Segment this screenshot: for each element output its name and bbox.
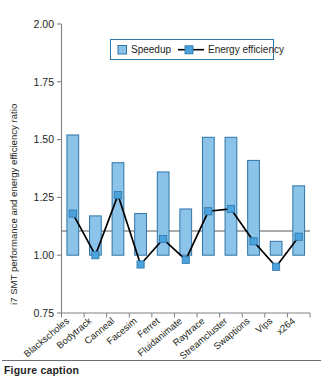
legend-swatch-speedup bbox=[118, 46, 127, 55]
y-tick-label: 1.25 bbox=[34, 191, 55, 203]
energy-efficiency-marker-streamcluster bbox=[227, 205, 234, 212]
y-tick-label: 2.00 bbox=[34, 18, 55, 30]
bar-raytrace bbox=[202, 137, 214, 255]
energy-efficiency-marker-raytrace bbox=[205, 208, 212, 215]
y-axis-title: i7 SMT performance and energy efficiency… bbox=[8, 104, 19, 305]
energy-efficiency-marker-facesim bbox=[137, 261, 144, 268]
bar-blackscholes bbox=[67, 135, 79, 255]
smt-speedup-energy-efficiency-chart: 0.751.001.251.501.752.00 BlackscholesBod… bbox=[0, 0, 323, 377]
energy-efficiency-marker-swaptions bbox=[250, 238, 257, 245]
bar-facesim bbox=[135, 214, 147, 256]
y-tick-label: 1.50 bbox=[34, 133, 55, 145]
y-tick-label: 0.75 bbox=[34, 307, 55, 319]
legend-label-energy-efficiency: Energy efficiency bbox=[208, 44, 284, 55]
legend-label-speedup: Speedup bbox=[131, 44, 171, 55]
bar-fluidanimate bbox=[180, 209, 192, 255]
energy-efficiency-marker-blackscholes bbox=[69, 210, 76, 217]
energy-efficiency-marker-canneal bbox=[114, 191, 121, 198]
legend-marker-energy-efficiency bbox=[185, 46, 193, 54]
energy-efficiency-marker-ferret bbox=[160, 235, 167, 242]
y-tick-label: 1.75 bbox=[34, 76, 55, 88]
energy-efficiency-marker-fluidanimate bbox=[182, 256, 189, 263]
caption-divider bbox=[2, 360, 321, 361]
energy-efficiency-marker-x264 bbox=[295, 233, 302, 240]
energy-efficiency-marker-bodytrack bbox=[92, 252, 99, 259]
figure-caption: Figure caption bbox=[4, 364, 320, 376]
energy-efficiency-marker-vips bbox=[273, 263, 280, 270]
y-tick-label: 1.00 bbox=[34, 249, 55, 261]
figure-container: 0.751.001.251.501.752.00 BlackscholesBod… bbox=[0, 0, 323, 377]
bar-x264 bbox=[293, 186, 305, 255]
bar-streamcluster bbox=[225, 137, 237, 255]
bar-vips bbox=[270, 241, 282, 255]
chart-legend: Speedup Energy efficiency bbox=[111, 40, 284, 60]
